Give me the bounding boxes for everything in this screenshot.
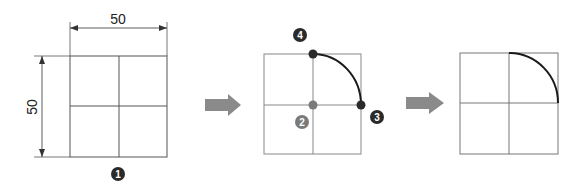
badge-1-label: 1	[115, 169, 121, 180]
arrow-right-icon	[406, 92, 444, 114]
step1-group: 50 50 1	[24, 11, 167, 181]
step2-badge-end: 3	[370, 110, 384, 124]
step2-group: 4 2 3	[264, 28, 384, 154]
step1-badge: 1	[111, 167, 125, 181]
height-dimension-label: 50	[24, 99, 40, 115]
width-dimension-label: 50	[110, 11, 126, 27]
badge-4-label: 4	[297, 30, 303, 41]
badge-2-label: 2	[299, 117, 305, 128]
arrow-right-icon	[205, 94, 241, 116]
badge-3-label: 3	[374, 112, 380, 123]
step2-arc	[313, 54, 361, 105]
step2-badge-center: 2	[295, 115, 309, 129]
diagram-canvas: 50 50 1 4 2	[0, 0, 580, 187]
step3-group	[460, 53, 558, 154]
step2-badge-start: 4	[293, 28, 307, 42]
arc-start-point	[309, 50, 318, 59]
step3-arc	[509, 53, 558, 103]
arc-center-point	[309, 101, 318, 110]
arc-end-point	[357, 101, 366, 110]
